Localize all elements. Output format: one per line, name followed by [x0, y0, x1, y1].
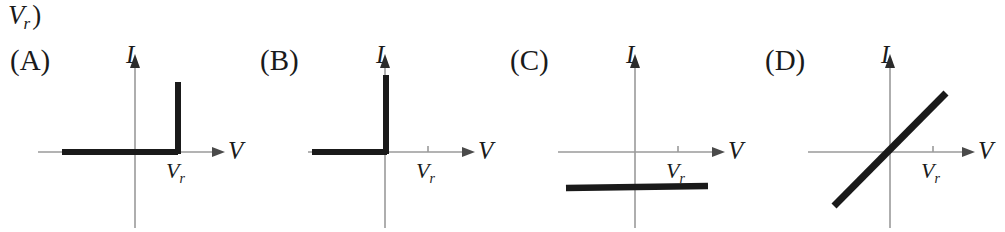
panel-b-i-axis-label: I: [376, 42, 384, 67]
panel-a: (A) I V Vr: [0, 30, 250, 232]
v-axis-arrowhead: [962, 147, 975, 157]
v-axis-arrowhead: [462, 147, 475, 157]
panel-d-i-axis-label: I: [881, 42, 889, 67]
panel-b-vr-label: Vr: [416, 160, 435, 182]
panel-c-vr-subscript: r: [679, 171, 684, 186]
panel-d-v-axis-label: V: [978, 138, 993, 163]
panel-c-vr-symbol: V: [666, 158, 679, 183]
panel-a-plot: [0, 30, 250, 232]
panel-a-vr-symbol: V: [166, 158, 179, 183]
panel-b-vr-symbol: V: [416, 158, 429, 183]
panel-b-vr-subscript: r: [429, 171, 434, 186]
panel-d: (D) I V Vr: [755, 30, 1005, 232]
panel-a-vr-label: Vr: [166, 160, 185, 182]
top-fragment-symbol: V: [8, 0, 25, 30]
figure-canvas: Vr) (A) I V Vr (B): [0, 0, 1005, 232]
panel-d-vr-symbol: V: [921, 158, 934, 183]
panel-c-vr-label: Vr: [666, 160, 685, 182]
panel-d-vr-label: Vr: [921, 160, 940, 182]
curve-constant-segment: [566, 186, 708, 188]
panel-b-plot: [250, 30, 500, 232]
panel-d-vr-subscript: r: [934, 171, 939, 186]
top-text-fragment: Vr): [8, 2, 41, 29]
v-axis-arrowhead: [212, 147, 225, 157]
panel-b-v-axis-label: V: [478, 138, 493, 163]
v-axis-arrowhead: [712, 147, 725, 157]
panel-c-v-axis-label: V: [728, 138, 743, 163]
panel-c: (C) I V Vr: [500, 30, 750, 232]
panel-a-vr-subscript: r: [179, 171, 184, 186]
panel-d-plot: [755, 30, 1005, 232]
panel-a-i-axis-label: I: [126, 42, 134, 67]
top-fragment-paren: ): [32, 0, 41, 30]
panel-b: (B) I V Vr: [250, 30, 500, 232]
panel-c-plot: [500, 30, 750, 232]
panel-a-v-axis-label: V: [228, 138, 243, 163]
panel-c-i-axis-label: I: [626, 42, 634, 67]
